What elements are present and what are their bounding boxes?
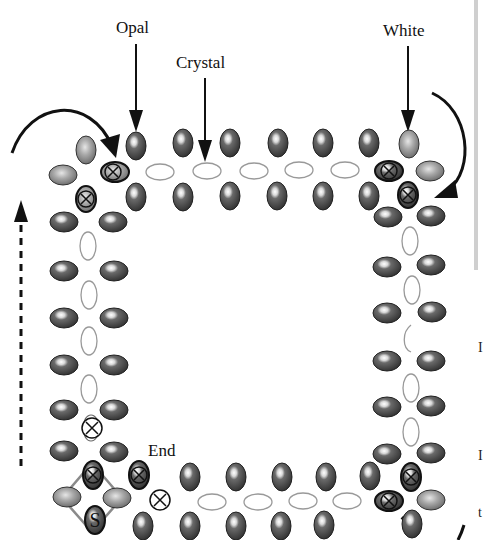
bead-crystal bbox=[81, 375, 97, 403]
corner-bottom-right bbox=[375, 463, 445, 538]
bead-opal bbox=[373, 444, 401, 464]
bead-crystal bbox=[81, 281, 97, 309]
pointer-arrow-crystal bbox=[198, 78, 212, 162]
bead-opal bbox=[313, 129, 333, 157]
bead-white bbox=[76, 136, 96, 164]
bead-opal bbox=[417, 351, 445, 371]
bead-opal bbox=[272, 463, 292, 491]
bead-opal bbox=[100, 442, 128, 462]
bead-opal bbox=[417, 255, 445, 275]
bead-opal bbox=[173, 183, 193, 211]
bead-opal bbox=[359, 182, 379, 210]
bead-opal bbox=[373, 303, 401, 323]
edge-text-mark: I bbox=[478, 448, 483, 464]
bead-opal bbox=[359, 129, 379, 157]
bead-opal bbox=[133, 512, 153, 540]
bead-crossed bbox=[398, 182, 418, 208]
edge-text-mark: I bbox=[478, 340, 483, 356]
label-crystal: Crystal bbox=[176, 53, 225, 72]
label-end: End bbox=[148, 441, 176, 460]
bead-crystal bbox=[404, 276, 420, 304]
bead-crystal bbox=[404, 325, 411, 352]
bead-white bbox=[49, 165, 77, 185]
bead-opal bbox=[100, 308, 128, 328]
edge-text-mark: t bbox=[478, 505, 482, 521]
bead-crossed bbox=[129, 461, 149, 489]
bead-white bbox=[103, 488, 131, 508]
bead-opal bbox=[180, 463, 200, 491]
corner-top-right bbox=[375, 161, 444, 208]
bead-crystal bbox=[402, 227, 418, 255]
bead-crystal bbox=[146, 164, 174, 180]
bead-white bbox=[399, 130, 419, 158]
bead-crystal bbox=[193, 163, 221, 179]
bead-crossed bbox=[375, 161, 403, 181]
bead-opal bbox=[373, 397, 401, 417]
pointer-arrow-opal bbox=[129, 44, 143, 132]
bead-opal bbox=[417, 206, 445, 226]
bead-crossed bbox=[375, 491, 403, 511]
bead-opal bbox=[173, 129, 193, 157]
bead-crystal bbox=[198, 494, 226, 510]
bead-opal bbox=[271, 512, 291, 540]
bead-opal bbox=[267, 182, 287, 210]
bead-opal bbox=[360, 462, 380, 490]
bead-opal bbox=[374, 207, 402, 227]
bead-opal bbox=[100, 400, 128, 420]
label-opal: Opal bbox=[116, 18, 149, 37]
bead-crossed bbox=[76, 186, 96, 212]
bead-crystal bbox=[240, 163, 268, 179]
bead-opal bbox=[50, 355, 78, 375]
bead-opal bbox=[313, 182, 333, 210]
bead-opal bbox=[126, 132, 146, 160]
bead-opal bbox=[126, 183, 146, 211]
bead-crystal bbox=[289, 493, 317, 509]
bead-crystal bbox=[80, 232, 96, 260]
bead-opal bbox=[50, 308, 78, 328]
bead-crystal bbox=[333, 493, 361, 509]
right-column bbox=[373, 206, 446, 464]
bead-opal bbox=[402, 510, 422, 538]
bead-crystal bbox=[403, 418, 419, 446]
bead-opal bbox=[417, 396, 445, 416]
pointer-arrow-white bbox=[401, 46, 415, 132]
bead-white bbox=[416, 161, 444, 181]
bead-crystal bbox=[331, 162, 359, 178]
bead-opal bbox=[220, 182, 240, 210]
bead-crossed bbox=[101, 162, 129, 182]
bead-opal bbox=[100, 261, 128, 281]
bead-opal bbox=[50, 441, 78, 461]
bead-crossed bbox=[82, 415, 102, 441]
bead-opal bbox=[316, 463, 336, 491]
beading-diagram: Opal Crystal White End bbox=[0, 0, 486, 540]
bead-white bbox=[417, 490, 445, 510]
dashed-arrow-up bbox=[14, 200, 28, 466]
left-column bbox=[50, 212, 128, 462]
bead-opal bbox=[50, 400, 78, 420]
bead-crossed bbox=[83, 461, 103, 489]
bead-opal bbox=[373, 257, 401, 277]
bead-opal bbox=[417, 443, 445, 463]
bead-opal bbox=[100, 355, 128, 375]
bead-crossed bbox=[401, 463, 421, 491]
bead-opal bbox=[373, 351, 401, 371]
bead-crystal bbox=[244, 494, 272, 510]
bead-opal bbox=[50, 212, 78, 232]
curved-arrow-top-left bbox=[12, 110, 120, 158]
bead-start: S bbox=[85, 506, 105, 534]
bead-opal bbox=[99, 212, 127, 232]
bead-white bbox=[53, 487, 81, 507]
bead-crystal bbox=[403, 374, 419, 402]
label-white: White bbox=[383, 21, 425, 40]
bead-crossed-end bbox=[150, 490, 170, 510]
bead-crystal bbox=[81, 327, 97, 355]
bead-opal bbox=[418, 302, 446, 322]
bead-opal bbox=[226, 512, 246, 540]
bead-opal bbox=[226, 463, 246, 491]
bead-opal bbox=[268, 129, 288, 157]
bead-crystal bbox=[285, 162, 313, 178]
bead-opal bbox=[220, 129, 240, 157]
bead-opal bbox=[180, 512, 200, 540]
bead-opal bbox=[50, 261, 78, 281]
bead-opal bbox=[314, 511, 334, 539]
